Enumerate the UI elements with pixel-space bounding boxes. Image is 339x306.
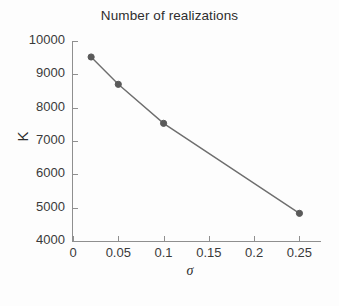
series-line (91, 57, 299, 213)
data-point-marker (296, 210, 302, 216)
series-markers (88, 54, 303, 217)
data-point-marker (160, 120, 166, 126)
data-series-layer (0, 0, 339, 306)
chart-figure: Number of realizations 40005000600070008… (0, 0, 339, 306)
data-point-marker (88, 54, 94, 60)
data-point-marker (115, 81, 121, 87)
